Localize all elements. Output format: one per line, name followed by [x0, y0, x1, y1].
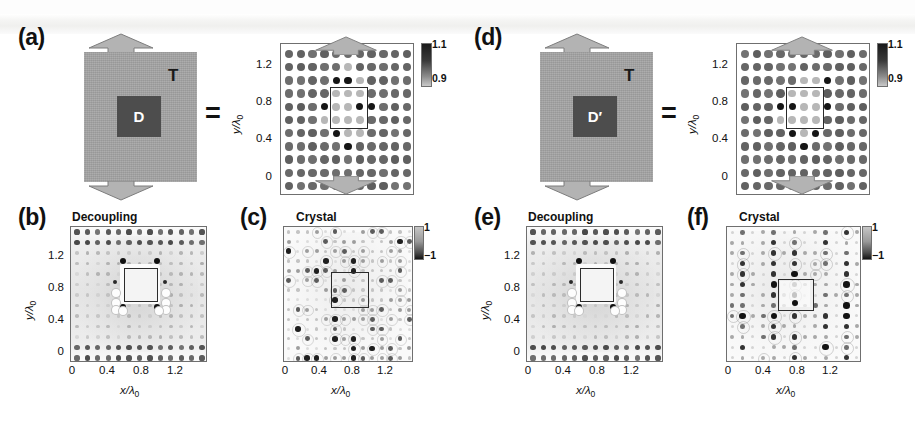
- panel-c-label: (c): [240, 204, 267, 231]
- field-node: [116, 355, 121, 360]
- lattice-rod: [741, 182, 750, 191]
- field-node: [168, 229, 173, 234]
- field-node: [408, 356, 411, 359]
- field-node: [127, 314, 131, 318]
- lattice-rod: [344, 77, 351, 84]
- scan-artifact-band: [0, 14, 915, 34]
- field-node: [625, 314, 629, 318]
- field-node: [541, 355, 546, 360]
- panel-f-xtick-3: 1.2: [818, 364, 842, 376]
- field-node: [106, 240, 111, 245]
- field-node: [625, 325, 629, 329]
- field-node: [189, 355, 194, 360]
- field-node: [158, 229, 163, 234]
- lattice-rod: [285, 155, 294, 164]
- field-node: [823, 313, 828, 318]
- panel-f-label: (f): [687, 204, 708, 231]
- field-node: [625, 283, 629, 287]
- panel-e-plot[interactable]: [526, 226, 663, 362]
- field-node: [562, 314, 566, 318]
- field-node: [803, 272, 807, 276]
- lattice-rod: [332, 155, 341, 164]
- field-node: [730, 335, 734, 339]
- lattice-rod: [391, 50, 400, 59]
- field-node: [783, 262, 786, 265]
- lattice-rod: [847, 155, 856, 164]
- lattice-rod: [847, 182, 856, 191]
- panel-f-xtick-1: 0.4: [751, 364, 775, 376]
- lattice-rod: [403, 103, 412, 112]
- lattice-rod: [320, 142, 329, 151]
- arrow-down-icon: [769, 176, 835, 195]
- field-node: [352, 328, 355, 331]
- field-node: [824, 356, 828, 360]
- panel-a-plot[interactable]: [280, 43, 414, 195]
- field-node: [751, 272, 755, 276]
- lattice-rod: [859, 89, 868, 98]
- field-node: [656, 293, 660, 297]
- field-hotspot: [120, 258, 126, 264]
- field-node: [730, 293, 734, 297]
- field-ring: [789, 352, 803, 362]
- lattice-rod: [776, 76, 785, 85]
- field-node: [169, 272, 173, 276]
- field-node: [655, 345, 660, 350]
- field-node: [814, 346, 817, 349]
- field-node: [594, 314, 598, 318]
- scan-artifact-top: [0, 0, 915, 14]
- field-node: [844, 271, 849, 276]
- field-node: [179, 293, 183, 297]
- lattice-rod: [823, 142, 832, 151]
- field-node: [85, 355, 90, 360]
- field-ring: [395, 295, 407, 307]
- field-node: [408, 250, 411, 253]
- field-node: [835, 231, 838, 234]
- field-node: [604, 314, 608, 318]
- field-node: [189, 229, 194, 234]
- field-node: [834, 293, 838, 297]
- field-ring: [161, 288, 171, 298]
- field-node: [530, 229, 535, 234]
- field-node: [398, 230, 401, 233]
- field-node: [552, 293, 556, 297]
- field-node: [315, 327, 318, 330]
- lattice-rod: [741, 76, 750, 85]
- lattice-rod: [776, 129, 785, 138]
- field-node: [315, 249, 319, 253]
- lattice-rod: [379, 63, 388, 72]
- lattice-rod: [741, 89, 750, 98]
- field-node: [771, 281, 777, 287]
- lattice-rod: [320, 89, 329, 98]
- lattice-rod: [320, 129, 329, 138]
- panel-e-xtick-0: 0: [518, 364, 538, 376]
- field-node: [127, 335, 131, 339]
- panel-c-title: Crystal: [296, 210, 337, 224]
- field-node: [158, 355, 163, 360]
- field-node: [835, 304, 838, 307]
- field-node: [296, 288, 299, 291]
- panel-b-plot[interactable]: [70, 226, 207, 362]
- field-node: [656, 272, 660, 276]
- lattice-rod: [741, 155, 750, 164]
- field-node: [96, 335, 100, 339]
- lattice-rod: [308, 89, 317, 98]
- panel-c-plot-canvas: [284, 227, 412, 361]
- field-node: [126, 240, 131, 245]
- field-node: [306, 347, 309, 350]
- field-ring: [311, 275, 323, 287]
- lattice-rod: [776, 89, 785, 98]
- panel-f-plot[interactable]: [726, 226, 861, 362]
- field-node: [531, 262, 535, 266]
- panel-d-plot[interactable]: [736, 43, 870, 195]
- field-node: [552, 283, 556, 287]
- field-node: [334, 260, 337, 263]
- field-node: [296, 259, 299, 262]
- panel-e-title: Decoupling: [528, 210, 593, 224]
- panel-c-plot[interactable]: [283, 226, 413, 362]
- field-node: [655, 240, 660, 245]
- lattice-rod: [835, 76, 844, 85]
- lattice-rod: [333, 77, 340, 84]
- panel-a-T-label: T: [168, 66, 178, 86]
- field-node: [127, 304, 131, 308]
- field-node: [334, 308, 337, 311]
